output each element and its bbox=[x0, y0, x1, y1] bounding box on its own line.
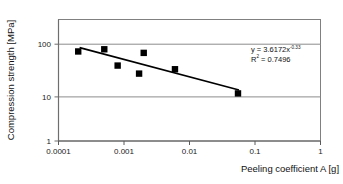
x-tick-label-3: 0.1 bbox=[249, 147, 261, 156]
data-point bbox=[101, 46, 107, 52]
equation-exponent: -0.33 bbox=[290, 45, 301, 50]
x-tick-label-1: 0.001 bbox=[114, 147, 135, 156]
x-tick-label-4: 1 bbox=[318, 147, 323, 156]
chart-canvas: 100 10 1 0.0001 0.001 0.01 0.1 1 Peeling… bbox=[0, 0, 343, 184]
data-point bbox=[114, 62, 120, 68]
y-tick-label-100: 100 bbox=[38, 40, 52, 49]
plot-frame bbox=[59, 20, 321, 142]
chart-figure: 100 10 1 0.0001 0.001 0.01 0.1 1 Peeling… bbox=[0, 0, 343, 184]
y-tick-label-1: 1 bbox=[47, 137, 52, 146]
x-axis-title: Peeling coefficient A [g] bbox=[241, 163, 339, 174]
x-tick-label-0: 0.0001 bbox=[46, 147, 71, 156]
data-point bbox=[172, 66, 178, 72]
x-tick-label-2: 0.01 bbox=[182, 147, 198, 156]
data-point bbox=[141, 50, 147, 56]
data-point bbox=[136, 70, 142, 76]
y-tick-label-10: 10 bbox=[42, 93, 51, 102]
equation-base: y = 3.6172x bbox=[251, 45, 290, 54]
data-point bbox=[235, 90, 241, 96]
r-squared-value: = 0.7496 bbox=[259, 55, 291, 64]
data-point bbox=[75, 48, 81, 54]
y-axis-title: Compression strength [MPa] bbox=[5, 20, 16, 140]
